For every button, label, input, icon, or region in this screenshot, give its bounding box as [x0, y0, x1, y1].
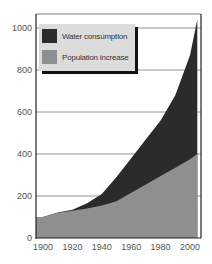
y-tick-label: 1000 [12, 23, 32, 33]
x-tick-label: 1960 [121, 242, 141, 252]
legend-label-population: Population increase [62, 53, 128, 62]
x-tick-label: 1980 [151, 242, 171, 252]
x-tick-label: 1940 [92, 242, 112, 252]
x-axis-ticks: 190019201940196019802000 [33, 242, 200, 252]
y-tick-label: 400 [17, 149, 32, 159]
x-tick-label: 2000 [180, 242, 200, 252]
y-axis-ticks: 02004006008001000 [12, 23, 32, 243]
y-tick-label: 800 [17, 65, 32, 75]
y-tick-label: 600 [17, 107, 32, 117]
legend-label-water: Water consumption [62, 32, 127, 41]
legend-item-water: Water consumption [42, 29, 127, 43]
x-tick-label: 1900 [33, 242, 53, 252]
population-swatch-icon [42, 50, 57, 64]
water-swatch-icon [42, 29, 57, 43]
legend: Water consumption Population increase [39, 24, 135, 71]
x-tick-label: 1920 [62, 242, 82, 252]
y-tick-label: 0 [27, 233, 32, 243]
y-tick-label: 200 [17, 191, 32, 201]
legend-item-population: Population increase [42, 50, 128, 64]
